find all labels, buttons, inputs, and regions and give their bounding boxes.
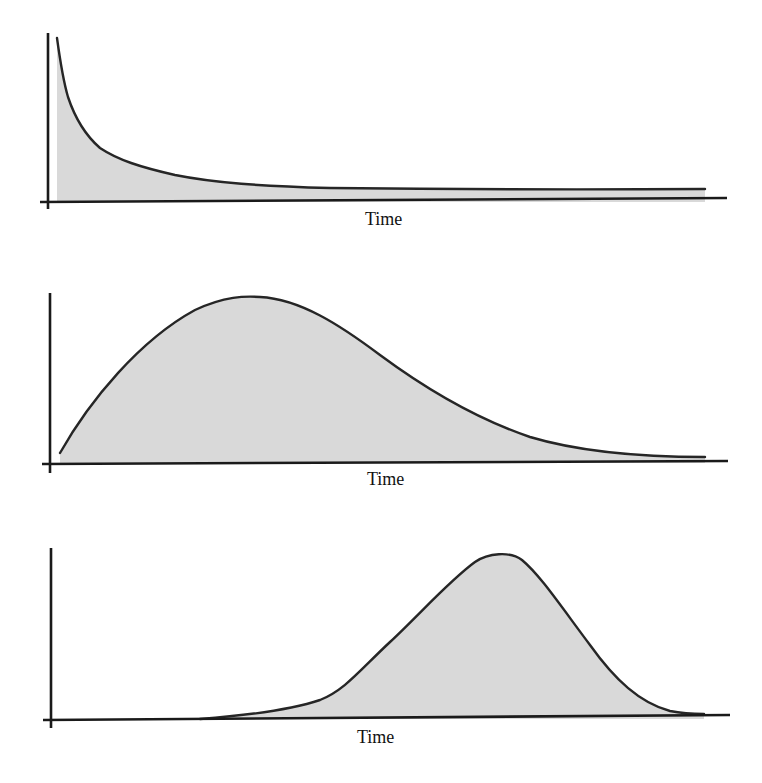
panel-decay <box>40 33 727 209</box>
early-peak-area <box>60 297 705 463</box>
early-peak-x-label: Time <box>367 470 404 488</box>
decay-area <box>57 38 705 202</box>
figure: Time Time Time <box>0 0 762 783</box>
decay-x-label: Time <box>365 210 402 228</box>
decay-curve <box>57 38 705 189</box>
late-peak-x-label: Time <box>357 728 394 746</box>
charts-svg <box>0 0 762 783</box>
panel-late-peak <box>43 548 730 728</box>
late-peak-area <box>200 554 704 719</box>
panel-early-peak <box>42 293 728 473</box>
